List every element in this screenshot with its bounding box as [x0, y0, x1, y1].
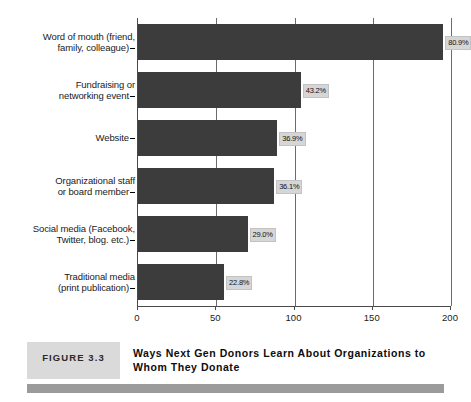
x-tick-mark-150	[372, 306, 373, 310]
x-tick-label-150: 150	[364, 312, 380, 323]
bar-value-label: 43.2%	[303, 84, 329, 98]
category-label-line: Fundraising or	[4, 79, 135, 91]
bar-value-label: 29.0%	[250, 228, 276, 242]
figure-tag-label: FIGURE 3.3	[27, 352, 120, 363]
x-tick-mark-200	[450, 306, 451, 310]
category-label: Social media (Facebook,Twitter, blog. et…	[4, 223, 135, 246]
bar	[138, 120, 277, 156]
category-label-line: or board member	[4, 186, 135, 198]
category-label: Fundraising ornetworking event	[4, 79, 135, 102]
category-axis-labels: Word of mouth (friend,family, colleague)…	[4, 18, 135, 306]
category-tick-dash-icon	[130, 138, 135, 139]
category-label: Website	[4, 132, 135, 144]
bar	[138, 216, 248, 252]
figure-title-line-1: Ways Next Gen Donors Learn About Organiz…	[133, 347, 411, 359]
category-label-line: Social media (Facebook,	[4, 223, 135, 235]
category-label-line: (print publication)	[4, 282, 135, 294]
bar	[138, 72, 301, 108]
gridline-50	[216, 18, 217, 306]
category-label: Word of mouth (friend,family, colleague)	[4, 31, 135, 54]
bar-value-label: 80.9%	[445, 36, 471, 50]
category-label-line: Website	[4, 132, 135, 144]
category-label-line: Organizational staff	[4, 175, 135, 187]
bar-chart: Word of mouth (friend,family, colleague)…	[0, 0, 470, 340]
figure-caption: FIGURE 3.3 Ways Next Gen Donors Learn Ab…	[0, 340, 470, 402]
category-label-line: networking event	[4, 90, 135, 102]
category-label-line: Twitter, blog. etc.)	[4, 234, 135, 246]
x-tick-label-50: 50	[210, 312, 221, 323]
figure-title: Ways Next Gen Donors Learn About Organiz…	[133, 346, 453, 374]
gridline-150	[373, 18, 374, 306]
plot-area: 80.9%43.2%36.9%36.1%29.0%22.8%	[137, 18, 451, 306]
bar-value-label: 36.1%	[276, 180, 302, 194]
x-tick-label-0: 0	[134, 312, 139, 323]
category-tick-dash-icon	[130, 240, 135, 241]
x-tick-label-200: 200	[442, 312, 458, 323]
category-tick-dash-icon	[130, 192, 135, 193]
x-tick-mark-50	[215, 306, 216, 310]
bar-value-label: 22.8%	[226, 276, 252, 290]
category-label: Traditional media(print publication)	[4, 271, 135, 294]
bar-value-label: 36.9%	[279, 132, 305, 146]
category-tick-dash-icon	[130, 48, 135, 49]
bar	[138, 264, 224, 300]
category-label-line: family, colleague)	[4, 42, 135, 54]
category-tick-dash-icon	[130, 96, 135, 97]
bar	[138, 168, 274, 204]
x-tick-label-100: 100	[286, 312, 302, 323]
category-label-line: Traditional media	[4, 271, 135, 283]
gridline-200	[451, 18, 452, 306]
gridline-100	[295, 18, 296, 306]
x-tick-mark-100	[294, 306, 295, 310]
category-label-line: Word of mouth (friend,	[4, 31, 135, 43]
bar	[138, 24, 443, 60]
caption-bottom-band	[27, 384, 444, 393]
x-tick-mark-0	[137, 306, 138, 310]
category-label: Organizational staffor board member	[4, 175, 135, 198]
category-tick-dash-icon	[130, 288, 135, 289]
